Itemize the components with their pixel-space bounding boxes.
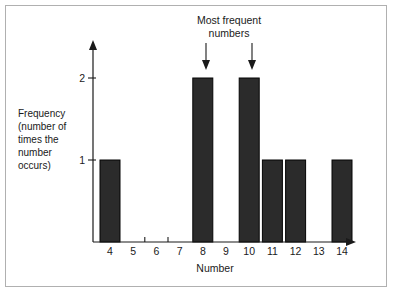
x-ticks-group	[145, 237, 168, 242]
x-tick-label: 6	[153, 245, 159, 257]
x-tick-label: 12	[290, 245, 302, 257]
bar	[239, 78, 259, 242]
bars-group	[100, 78, 352, 242]
y-axis-label-line-1: Frequency	[18, 108, 65, 119]
y-axis-label-line-4: number	[18, 147, 53, 158]
x-tick-label: 4	[107, 245, 113, 257]
y-axis-label-line-3: times the	[18, 134, 59, 145]
x-tick-label: 10	[243, 245, 255, 257]
annotation-arrow-to-10	[248, 43, 256, 70]
x-tick-label: 11	[267, 245, 278, 257]
x-tick-label: 14	[336, 245, 348, 257]
x-tick-label: 8	[200, 245, 206, 257]
x-tick-label: 13	[313, 245, 325, 257]
annotation-arrow-to-8	[202, 43, 210, 70]
y-tick-label-1: 1	[79, 154, 85, 166]
annotation-most-frequent: Most frequent numbers	[197, 14, 261, 70]
x-axis-title: Number	[196, 262, 234, 274]
chart-page: Frequency (number of times the number oc…	[0, 0, 394, 294]
bar	[286, 160, 306, 242]
annotation-text-line-1: Most frequent	[197, 14, 261, 26]
x-tick-labels-group: 4567891011121314	[107, 245, 348, 257]
y-axis-label-line-2: (number of	[18, 121, 67, 132]
y-axis-label-line-5: occurs)	[18, 160, 51, 171]
y-axis: 1 2	[79, 40, 97, 242]
bar-chart: Frequency (number of times the number oc…	[0, 0, 394, 294]
x-tick-label: 7	[177, 245, 183, 257]
bar	[193, 78, 213, 242]
bar	[262, 160, 282, 242]
x-axis: 4567891011121314 Number	[93, 237, 356, 274]
y-tick-label-2: 2	[79, 72, 85, 84]
x-tick-label: 9	[223, 245, 229, 257]
y-axis-label: Frequency (number of times the number oc…	[18, 108, 67, 171]
bar	[100, 160, 120, 242]
annotation-text-line-2: numbers	[209, 27, 250, 39]
bar	[332, 160, 352, 242]
x-tick-label: 5	[130, 245, 136, 257]
